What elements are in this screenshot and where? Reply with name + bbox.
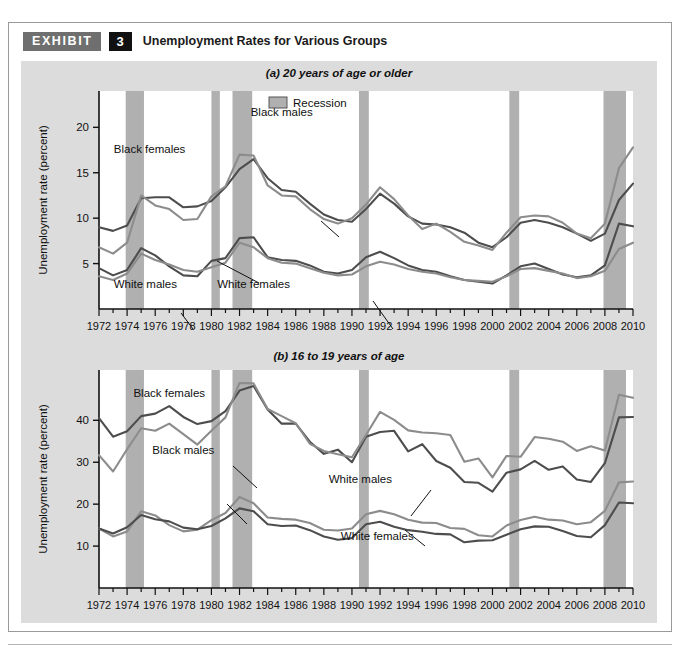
- recession-band: [603, 370, 625, 588]
- exhibit-title: Unemployment Rates for Various Groups: [143, 34, 388, 48]
- recession-band: [359, 91, 369, 309]
- x-tick-label: 1980: [199, 599, 223, 611]
- x-tick-label: 1974: [115, 599, 139, 611]
- recession-legend-label: Recession: [293, 97, 347, 109]
- exhibit-badge: EXHIBIT: [23, 32, 101, 51]
- panel-a-svg: 5101520Unemployment rate (percent)197219…: [21, 61, 657, 344]
- y-tick-label: 30: [76, 456, 89, 468]
- x-tick-label: 2004: [536, 599, 560, 611]
- x-tick-label: 2000: [480, 599, 504, 611]
- recession-legend-swatch: [269, 97, 287, 108]
- x-tick-label: 1974: [115, 320, 139, 332]
- recession-band: [233, 91, 253, 309]
- panel-b-svg: 10203040Unemployment rate (percent)19721…: [21, 344, 657, 623]
- x-tick-label: 2004: [536, 320, 560, 332]
- y-tick-label: 40: [76, 414, 89, 426]
- x-tick-label: 1992: [368, 599, 392, 611]
- series-annotation: White females: [341, 530, 414, 542]
- x-tick-label: 1988: [312, 599, 336, 611]
- x-tick-label: 1994: [396, 320, 420, 332]
- y-axis-title: Unemployment rate (percent): [37, 125, 49, 275]
- x-tick-label: 1972: [87, 599, 111, 611]
- x-tick-label: 2010: [621, 599, 645, 611]
- recession-band: [509, 370, 519, 588]
- x-tick-label: 1978: [171, 320, 195, 332]
- x-tick-label: 1998: [452, 320, 476, 332]
- x-tick-label: 2002: [508, 599, 532, 611]
- recession-band: [126, 370, 144, 588]
- x-tick-label: 1996: [424, 320, 448, 332]
- x-tick-label: 1990: [340, 320, 364, 332]
- recession-band: [603, 91, 625, 309]
- recession-band: [509, 91, 519, 309]
- x-tick-label: 2008: [593, 599, 617, 611]
- x-tick-label: 2010: [621, 320, 645, 332]
- x-tick-label: 2000: [480, 320, 504, 332]
- series-annotation: White males: [329, 473, 393, 485]
- y-tick-label: 10: [76, 540, 89, 552]
- x-tick-label: 1982: [227, 599, 251, 611]
- exhibit-header: EXHIBIT 3 Unemployment Rates for Various…: [23, 31, 387, 51]
- x-tick-label: 2006: [565, 320, 589, 332]
- x-tick-label: 1992: [368, 320, 392, 332]
- recession-band: [233, 370, 253, 588]
- y-tick-label: 15: [76, 167, 89, 179]
- x-tick-label: 1986: [283, 599, 307, 611]
- recession-band: [211, 370, 219, 588]
- y-tick-label: 5: [83, 258, 89, 270]
- x-tick-label: 2002: [508, 320, 532, 332]
- x-tick-label: 1986: [283, 320, 307, 332]
- panel-a-plot: 5101520Unemployment rate (percent)197219…: [21, 61, 657, 344]
- series-annotation: Black males: [152, 444, 214, 456]
- x-tick-label: 1994: [396, 599, 420, 611]
- x-tick-label: 1982: [227, 320, 251, 332]
- x-tick-label: 2006: [565, 599, 589, 611]
- x-tick-label: 1998: [452, 599, 476, 611]
- x-tick-label: 1980: [199, 320, 223, 332]
- series-annotation: White males: [114, 278, 178, 290]
- panel-b-plot: 10203040Unemployment rate (percent)19721…: [21, 344, 657, 623]
- x-tick-label: 1976: [143, 599, 167, 611]
- x-tick-label: 1990: [340, 599, 364, 611]
- x-tick-label: 1984: [255, 599, 279, 611]
- y-axis-title: Unemployment rate (percent): [37, 404, 49, 554]
- panel-a: (a) 20 years of age or older 5101520Unem…: [21, 61, 657, 344]
- chart-plate: (a) 20 years of age or older 5101520Unem…: [21, 61, 657, 623]
- exhibit-frame: EXHIBIT 3 Unemployment Rates for Various…: [8, 22, 672, 632]
- x-tick-label: 2008: [593, 320, 617, 332]
- y-tick-label: 20: [76, 121, 89, 133]
- exhibit-number-badge: 3: [109, 32, 132, 51]
- series-annotation: Black females: [114, 143, 186, 155]
- x-tick-label: 1996: [424, 599, 448, 611]
- x-tick-label: 1972: [87, 320, 111, 332]
- exhibit-page: EXHIBIT 3 Unemployment Rates for Various…: [0, 0, 687, 656]
- panel-b: (b) 16 to 19 years of age 10203040Unempl…: [21, 344, 657, 623]
- bottom-divider: [8, 644, 672, 645]
- x-tick-label: 1984: [255, 320, 279, 332]
- y-tick-label: 20: [76, 498, 89, 510]
- y-tick-label: 10: [76, 212, 89, 224]
- x-tick-label: 1988: [312, 320, 336, 332]
- x-tick-label: 1978: [171, 599, 195, 611]
- x-tick-label: 1976: [143, 320, 167, 332]
- series-annotation: Black females: [133, 387, 205, 399]
